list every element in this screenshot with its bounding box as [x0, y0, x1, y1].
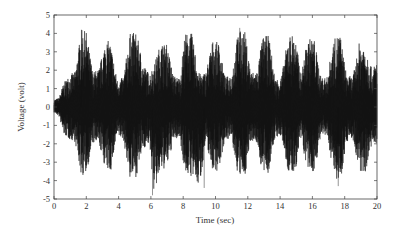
y-tick-label: 4 — [46, 28, 51, 38]
y-tick-label: 1 — [46, 84, 50, 94]
y-tick-label: 2 — [46, 65, 50, 75]
x-tick-label: 4 — [116, 201, 121, 211]
y-tick-label: -4 — [43, 176, 51, 186]
x-tick-label: 18 — [340, 201, 349, 211]
voltage-time-chart: 02468101214161820 -5-4-3-2-1012345 Time … — [0, 0, 400, 237]
y-tick-label: -2 — [43, 139, 50, 149]
y-tick-label: -1 — [43, 120, 50, 130]
x-tick-label: 0 — [52, 201, 56, 211]
x-tick-label: 6 — [149, 201, 153, 211]
y-tick-label: 3 — [46, 47, 50, 57]
x-axis-label: Time (sec) — [196, 215, 234, 225]
y-tick-label: 0 — [46, 102, 50, 112]
y-tick-label: -3 — [43, 157, 50, 167]
x-tick-label: 20 — [373, 201, 382, 211]
x-tick-label: 14 — [276, 201, 285, 211]
y-tick-label: -5 — [43, 194, 50, 204]
voltage-signal-trace — [54, 28, 377, 195]
x-tick-label: 12 — [244, 201, 253, 211]
y-axis-label: Voltage (volt) — [16, 82, 26, 132]
x-tick-label: 8 — [181, 201, 185, 211]
x-tick-label: 2 — [84, 201, 88, 211]
x-tick-label: 16 — [308, 201, 317, 211]
signal-path — [54, 28, 377, 195]
y-tick-label: 5 — [46, 10, 50, 20]
x-tick-label: 10 — [211, 201, 220, 211]
